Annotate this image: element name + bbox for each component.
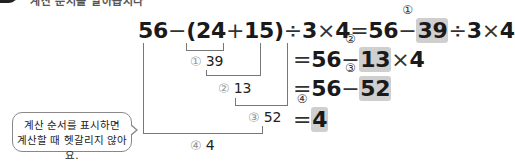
step4-value: 4 <box>311 107 328 132</box>
step2-value: 13 <box>359 47 391 72</box>
step3-minus: ③− <box>341 76 359 101</box>
step3-value: 52 <box>359 76 391 101</box>
bracket2-right <box>260 43 261 76</box>
step3-mark: ③ <box>345 61 355 75</box>
times-sign: × <box>317 18 335 43</box>
tip-line-1: 계산 순서를 표시하면 <box>13 118 131 133</box>
operand-15: 15 <box>244 18 274 43</box>
bracket2-bottom <box>206 75 261 76</box>
bracket1-bottom <box>186 50 224 51</box>
bracket3-left <box>235 98 236 105</box>
sub-result-2: ②13 <box>218 80 251 96</box>
step4-mark: ④ <box>297 92 307 106</box>
step1-times: × <box>482 18 500 43</box>
step2-four: 4 <box>409 47 424 72</box>
close-paren: ) <box>274 18 284 43</box>
open-paren: ( <box>186 18 196 43</box>
sub-result-3: ③52 <box>248 109 281 125</box>
tip-speech-bubble: 계산 순서를 표시하면 계산할 때 헷갈리지 않아요. <box>12 112 132 152</box>
section-badge <box>0 0 18 3</box>
step1-four: 4 <box>500 18 515 43</box>
step2-times: × <box>391 47 409 72</box>
step1-value: 39 <box>416 18 448 43</box>
operand-3: 3 <box>302 18 317 43</box>
bracket3-right <box>287 43 288 105</box>
sub-result-1: ①39 <box>190 53 223 69</box>
step1-lhs: 56 <box>368 18 398 43</box>
bracket4-bottom <box>143 133 263 134</box>
step2-line: =56②−13×4 <box>293 47 424 72</box>
bracket1-right <box>223 43 224 50</box>
divide-sign: ÷ <box>284 18 302 43</box>
bracket1-left <box>186 43 187 50</box>
step2-mark: ② <box>345 32 355 46</box>
section-header-text: 계산 순서를 알아봅시다 <box>30 0 144 8</box>
tip-line-2: 계산할 때 헷갈리지 않아요. <box>13 133 131 163</box>
step1-mark: ① <box>402 3 412 17</box>
operand-24: 24 <box>196 18 226 43</box>
plus-sign: + <box>226 18 244 43</box>
minus-sign: − <box>168 18 186 43</box>
bubble-tail-inner <box>130 125 136 135</box>
operand-56: 56 <box>138 18 168 43</box>
step1-divide: ÷ <box>448 18 466 43</box>
sub-result-4: ④4 <box>190 137 215 153</box>
step4-equals: ④= <box>293 107 311 132</box>
step1-three: 3 <box>467 18 482 43</box>
step2-equals: = <box>293 47 311 72</box>
main-expression: 56−(24+15)÷3×4=56①−39÷3×4 <box>138 18 515 43</box>
step3-lhs: 56 <box>311 76 341 101</box>
step1-minus: ①− <box>398 18 416 43</box>
step3-line: =56③−52 <box>293 76 391 101</box>
bracket3-bottom <box>235 105 288 106</box>
step2-lhs: 56 <box>311 47 341 72</box>
bracket4-right <box>262 126 263 133</box>
bracket4-left <box>143 43 144 133</box>
step4-line: ④=4 <box>293 107 328 132</box>
